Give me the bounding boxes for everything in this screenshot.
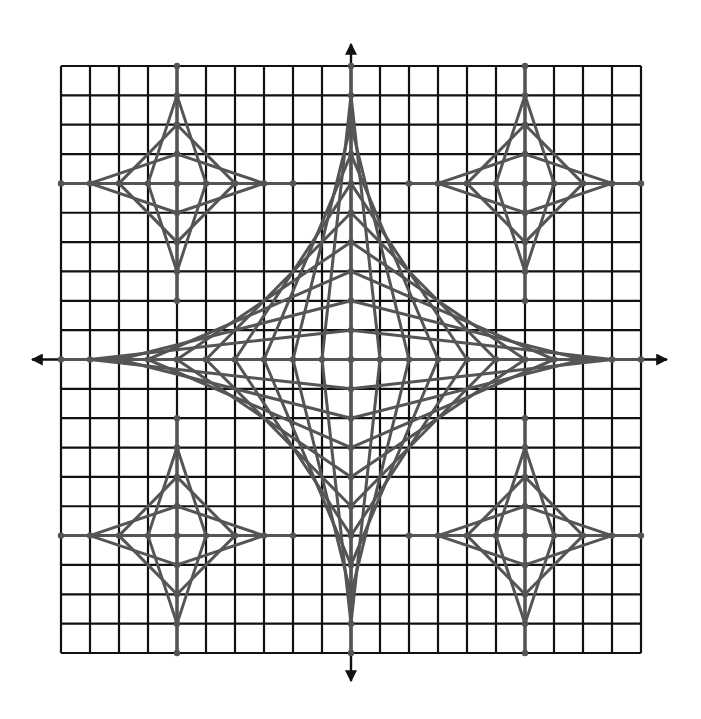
string-line bbox=[90, 154, 177, 183]
point bbox=[522, 63, 528, 69]
point bbox=[232, 532, 238, 538]
point bbox=[203, 356, 209, 362]
point bbox=[522, 210, 528, 216]
point bbox=[174, 444, 180, 450]
point bbox=[377, 356, 383, 362]
point bbox=[493, 356, 499, 362]
point bbox=[348, 386, 354, 392]
point bbox=[174, 268, 180, 274]
point bbox=[261, 180, 267, 186]
point bbox=[290, 532, 296, 538]
point bbox=[174, 298, 180, 304]
point bbox=[348, 210, 354, 216]
point bbox=[348, 298, 354, 304]
point bbox=[348, 268, 354, 274]
point bbox=[348, 327, 354, 333]
string-line bbox=[438, 183, 525, 212]
point bbox=[435, 180, 441, 186]
point bbox=[348, 151, 354, 157]
string-line bbox=[438, 154, 525, 183]
point bbox=[522, 503, 528, 509]
point bbox=[348, 532, 354, 538]
point bbox=[580, 180, 586, 186]
point bbox=[406, 356, 412, 362]
point bbox=[348, 503, 354, 509]
point bbox=[174, 650, 180, 656]
point bbox=[522, 239, 528, 245]
point bbox=[174, 92, 180, 98]
point bbox=[174, 562, 180, 568]
point bbox=[174, 63, 180, 69]
point bbox=[116, 180, 122, 186]
point bbox=[406, 532, 412, 538]
point bbox=[464, 180, 470, 186]
point bbox=[145, 532, 151, 538]
point bbox=[174, 356, 180, 362]
point bbox=[522, 151, 528, 157]
point bbox=[522, 474, 528, 480]
point bbox=[232, 356, 238, 362]
point bbox=[203, 180, 209, 186]
point bbox=[290, 180, 296, 186]
point bbox=[348, 562, 354, 568]
point bbox=[203, 532, 209, 538]
point bbox=[87, 532, 93, 538]
point bbox=[435, 356, 441, 362]
string-line bbox=[525, 183, 612, 212]
point bbox=[145, 356, 151, 362]
point bbox=[522, 650, 528, 656]
point bbox=[261, 356, 267, 362]
point bbox=[522, 532, 528, 538]
point bbox=[522, 356, 528, 362]
point bbox=[435, 532, 441, 538]
point bbox=[174, 503, 180, 509]
point bbox=[348, 239, 354, 245]
point bbox=[348, 474, 354, 480]
point bbox=[348, 92, 354, 98]
point bbox=[493, 532, 499, 538]
string-line bbox=[525, 506, 612, 535]
string-line bbox=[525, 154, 612, 183]
point bbox=[261, 532, 267, 538]
point bbox=[522, 92, 528, 98]
point bbox=[493, 180, 499, 186]
point bbox=[174, 532, 180, 538]
point bbox=[174, 239, 180, 245]
point bbox=[58, 532, 64, 538]
point bbox=[580, 356, 586, 362]
point bbox=[348, 122, 354, 128]
point bbox=[348, 63, 354, 69]
point bbox=[609, 532, 615, 538]
point bbox=[348, 356, 354, 362]
point bbox=[464, 532, 470, 538]
point bbox=[319, 356, 325, 362]
point bbox=[580, 532, 586, 538]
string-line bbox=[525, 536, 612, 565]
point bbox=[638, 532, 644, 538]
grid-points bbox=[58, 63, 644, 656]
point bbox=[551, 180, 557, 186]
point bbox=[290, 356, 296, 362]
point bbox=[406, 180, 412, 186]
point bbox=[58, 356, 64, 362]
point bbox=[522, 620, 528, 626]
point bbox=[116, 532, 122, 538]
point bbox=[609, 356, 615, 362]
point bbox=[348, 620, 354, 626]
point bbox=[522, 268, 528, 274]
string-line bbox=[90, 183, 177, 212]
string-line bbox=[438, 506, 525, 535]
string-line bbox=[177, 183, 264, 212]
point bbox=[522, 180, 528, 186]
point bbox=[145, 180, 151, 186]
point bbox=[174, 151, 180, 157]
point bbox=[174, 591, 180, 597]
point bbox=[464, 356, 470, 362]
string-line bbox=[177, 154, 264, 183]
point bbox=[609, 180, 615, 186]
string-line bbox=[177, 536, 264, 565]
point bbox=[638, 356, 644, 362]
point bbox=[174, 415, 180, 421]
point bbox=[551, 532, 557, 538]
point bbox=[58, 180, 64, 186]
